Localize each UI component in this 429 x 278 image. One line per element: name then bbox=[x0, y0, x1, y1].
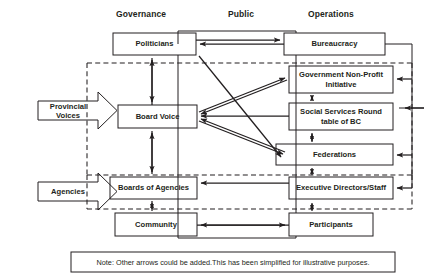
bureaucracy-box bbox=[284, 33, 385, 55]
government-non-profit-initiative-box bbox=[289, 66, 393, 93]
executive-directors-box bbox=[289, 177, 393, 199]
agencies-label: Agencies bbox=[40, 183, 96, 201]
right-bus-upper bbox=[385, 44, 412, 108]
federations-box bbox=[276, 144, 393, 165]
column-header-operations: Operations bbox=[308, 9, 354, 19]
board-voice-box bbox=[118, 105, 197, 128]
column-header-public: Public bbox=[228, 9, 254, 19]
agencies-region bbox=[87, 175, 412, 209]
arrow-boardvoice-govnonprofit bbox=[199, 78, 285, 112]
social-services-box bbox=[289, 103, 393, 130]
community-box bbox=[115, 213, 197, 236]
column-header-governance: Governance bbox=[116, 9, 166, 19]
arrow-boardvoice-federations bbox=[199, 121, 283, 154]
provincial-voices-label: Provincial Voices bbox=[40, 100, 96, 122]
note-text: Note: Other arrows could be added.This h… bbox=[71, 252, 395, 272]
politicians-box bbox=[113, 33, 196, 55]
diagram-graphics bbox=[0, 0, 429, 278]
boards-of-agencies-box bbox=[110, 177, 197, 199]
diagram-canvas: Governance Public Operations Provincial … bbox=[0, 0, 429, 278]
participants-box bbox=[289, 213, 373, 236]
arrow-govnonprofit-boardvoice bbox=[201, 80, 287, 114]
